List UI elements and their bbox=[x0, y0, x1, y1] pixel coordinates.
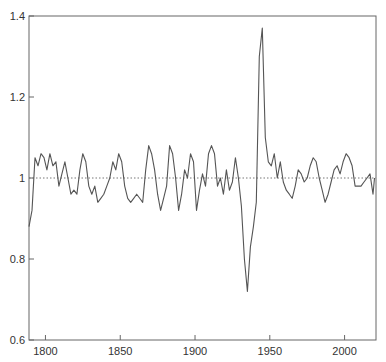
y-tick-label: 1.4 bbox=[10, 10, 25, 22]
plot-area bbox=[29, 16, 376, 340]
y-tick-label: 1 bbox=[19, 172, 25, 184]
x-tick-label: 1800 bbox=[33, 345, 57, 357]
x-tick-label: 1900 bbox=[183, 345, 207, 357]
y-tick-label: 0.6 bbox=[10, 334, 25, 346]
x-tick-label: 2000 bbox=[332, 345, 356, 357]
y-tick-label: 1.2 bbox=[10, 91, 25, 103]
x-tick-label: 1950 bbox=[258, 345, 282, 357]
line-chart: 18001850190019502000 0.60.811.21.4 bbox=[0, 0, 386, 362]
y-tick-label: 0.8 bbox=[10, 253, 25, 265]
x-tick-label: 1850 bbox=[108, 345, 132, 357]
